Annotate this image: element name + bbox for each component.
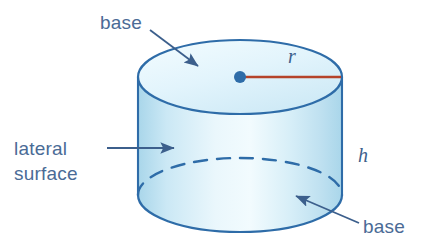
base-top-label: base: [100, 12, 142, 33]
base-bottom-label: base: [363, 216, 405, 237]
cylinder-figure-svg: r h base lateral surface base: [0, 0, 422, 245]
radius-label: r: [288, 45, 296, 67]
cylinder-diagram: r h base lateral surface base: [0, 0, 422, 245]
height-label: h: [358, 144, 368, 166]
center-dot: [234, 71, 246, 83]
lateral-surface-label-line1: lateral: [14, 138, 67, 159]
lateral-surface-label-line2: surface: [14, 163, 78, 184]
